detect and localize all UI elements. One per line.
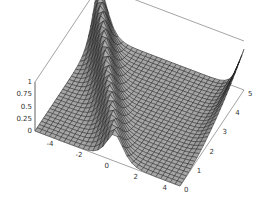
y-tick-label: 3	[222, 128, 226, 136]
surface-plot-canvas: -4-202401234500.250.50.751	[0, 0, 263, 202]
y-tick-label: 4	[235, 109, 240, 117]
y-tick-label: 5	[248, 90, 252, 98]
surface-mesh	[35, 0, 244, 186]
z-tick-label: 0.5	[21, 103, 32, 111]
y-tick-label: 0	[184, 186, 188, 194]
x-tick-label: 2	[134, 173, 138, 181]
surface-plot: -4-202401234500.250.50.751	[0, 0, 263, 202]
z-tick-label: 0	[28, 127, 32, 135]
y-tick-label: 2	[210, 148, 214, 156]
z-tick-label: 0.75	[16, 90, 32, 98]
y-tick-label: 1	[197, 167, 201, 175]
z-tick-label: 1	[28, 78, 32, 86]
z-tick-label: 0.25	[16, 115, 32, 123]
x-tick-label: 0	[105, 162, 109, 170]
x-tick-label: -4	[47, 140, 55, 148]
x-tick-label: -2	[76, 151, 83, 159]
x-tick-label: 4	[163, 184, 168, 192]
